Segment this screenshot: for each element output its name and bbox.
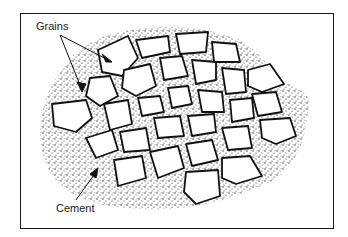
grains-label: Grains	[36, 20, 68, 32]
cement-label: Cement	[56, 202, 95, 214]
sandstone-grain-diagram	[0, 0, 348, 237]
